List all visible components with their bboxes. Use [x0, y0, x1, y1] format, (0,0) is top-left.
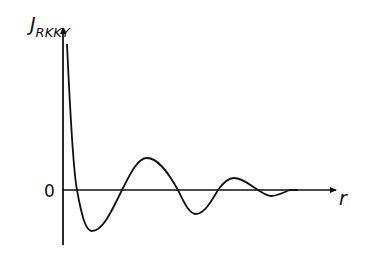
rkky-curve: [67, 44, 298, 231]
x-axis-label: r: [339, 187, 348, 209]
origin-label: 0: [44, 181, 55, 201]
rkky-diagram: JRKKY 0 r: [0, 0, 365, 262]
y-axis-label: JRKKY: [26, 13, 71, 40]
